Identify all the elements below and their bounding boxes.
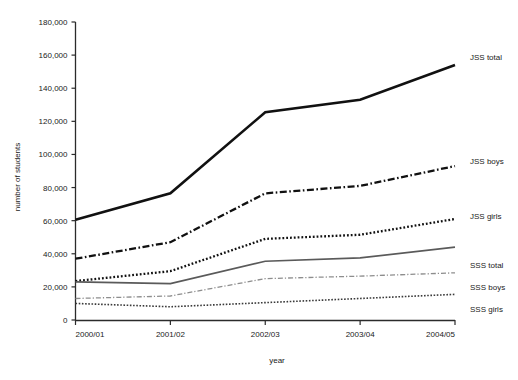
x-tick-label: 2004/05 (426, 330, 455, 339)
series-line-jss-total (76, 65, 456, 220)
series-line-jss-boys (76, 166, 456, 259)
y-axis-title: number of students (13, 143, 22, 211)
x-tick-label: 2001/02 (156, 330, 185, 339)
series-label-sss-girls: SSS girls (470, 305, 503, 314)
series-label-sss-boys: SSS boys (470, 283, 505, 292)
y-tick-label: 120,000 (39, 117, 68, 126)
y-tick-label: 40,000 (43, 250, 68, 259)
series-label-jss-boys: JSS boys (470, 157, 504, 166)
series-line-sss-girls (76, 294, 456, 306)
y-tick-label: 60,000 (43, 217, 68, 226)
series-lines-group (76, 65, 456, 307)
y-tick-label: 80,000 (43, 184, 68, 193)
y-tick-label: 100,000 (39, 150, 68, 159)
series-labels-group: JSS totalJSS boysJSS girlsSSS totalSSS b… (470, 53, 505, 314)
x-axis-title: year (269, 356, 285, 365)
line-chart: number of students year 020,00040,00060,… (0, 0, 518, 380)
series-label-jss-girls: JSS girls (470, 212, 502, 221)
y-tick-label: 0 (63, 316, 68, 325)
series-line-sss-boys (76, 273, 456, 299)
x-tick-label: 2002/03 (251, 330, 280, 339)
y-tick-label: 140,000 (39, 84, 68, 93)
y-tick-label: 180,000 (39, 18, 68, 27)
series-label-sss-total: SSS total (470, 261, 504, 270)
y-tick-label: 20,000 (43, 283, 68, 292)
chart-container: number of students year 020,00040,00060,… (0, 0, 518, 380)
x-tick-label: 2003/04 (346, 330, 375, 339)
y-tick-label: 160,000 (39, 51, 68, 60)
series-line-jss-girls (76, 219, 456, 281)
x-tick-label: 2000/01 (76, 330, 105, 339)
series-label-jss-total: JSS total (470, 53, 502, 62)
x-axis-ticks: 2000/012001/022002/032003/042004/05 (76, 320, 456, 339)
y-axis-ticks: 020,00040,00060,00080,000100,000120,0001… (39, 18, 76, 325)
